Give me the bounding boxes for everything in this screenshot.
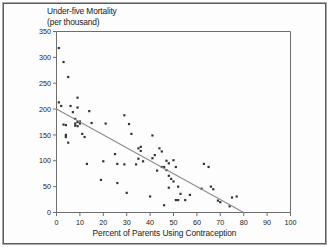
x-axis-tick-label: 70 [216,218,224,227]
data-point [165,160,167,162]
data-point [154,154,156,156]
data-point [116,163,118,165]
x-axis-tick-label: 0 [55,218,59,227]
data-point [123,163,125,165]
x-axis-tick-label: 90 [263,218,271,227]
data-point [217,200,219,202]
data-point [105,122,107,124]
data-point [161,150,163,152]
data-point [231,196,233,198]
data-point [62,61,64,63]
data-point [219,201,221,203]
data-point [116,182,118,184]
y-axis-tick-label: 100 [39,156,51,165]
data-point [83,136,85,138]
data-point [86,163,88,165]
y-axis-tick-label: 0 [47,208,51,217]
data-point [72,111,74,113]
data-point [210,186,212,188]
data-point [81,133,83,135]
data-point [126,192,128,194]
data-point [67,142,69,144]
data-point [123,114,125,116]
data-point [88,110,90,112]
x-axis-tick-label: 80 [240,218,248,227]
y-axis-tick-label: 50 [43,182,51,191]
data-point [128,123,130,125]
x-axis-tick-label: 100 [285,218,297,227]
data-point [65,136,67,138]
data-point [67,76,69,78]
data-point [140,150,142,152]
data-point [151,134,153,136]
data-point [100,179,102,181]
data-point [137,147,139,149]
data-point [175,166,177,168]
data-point [208,166,210,168]
data-point [62,123,64,125]
data-point [236,195,238,197]
data-point [142,160,144,162]
data-point [172,159,174,161]
data-point [76,125,78,127]
data-point [168,187,170,189]
data-point [184,199,186,201]
data-point [168,175,170,177]
data-point [177,199,179,201]
data-point [149,195,151,197]
data-point [163,204,165,206]
y-axis-tick-label: 250 [39,79,51,88]
data-point-group [58,47,238,207]
data-point [137,158,139,160]
y-axis-tick-label: 300 [39,53,51,62]
y-axis-tick-label: 350 [39,27,51,36]
data-point [135,163,137,165]
data-point [65,124,67,126]
scatter-plot: 0501001502002503003500102030405060708090… [0,0,329,247]
data-point [212,188,214,190]
data-point [60,105,62,107]
x-axis-tick-label: 60 [193,218,201,227]
figure-container: Under-five Mortality (per thousand) 0501… [0,0,329,247]
data-point [140,146,142,148]
data-point [151,157,153,159]
data-point [65,134,67,136]
data-point [91,122,93,124]
data-point [74,125,76,127]
y-axis-tick-label: 150 [39,131,51,140]
data-point [76,106,78,108]
y-axis-tick-label: 200 [39,105,51,114]
x-axis-title: Percent of Parents Using Contraception [0,228,329,238]
data-point [172,180,174,182]
data-point [175,199,177,201]
data-point [156,170,158,172]
x-axis-tick-label: 30 [123,218,131,227]
data-point [168,162,170,164]
data-point [69,105,71,107]
data-point [58,101,60,103]
data-point [76,97,78,99]
x-axis-tick-label: 10 [76,218,84,227]
data-point [114,153,116,155]
data-point [179,193,181,195]
data-point [74,122,76,124]
data-point [170,178,172,180]
data-point [158,147,160,149]
x-axis-tick-label: 40 [146,218,154,227]
data-point [189,194,191,196]
data-point [58,47,60,49]
data-point [130,133,132,135]
x-axis-tick-label: 20 [99,218,107,227]
x-axis-tick-label: 50 [170,218,178,227]
data-point [203,163,205,165]
data-point [102,160,104,162]
data-point [177,186,179,188]
